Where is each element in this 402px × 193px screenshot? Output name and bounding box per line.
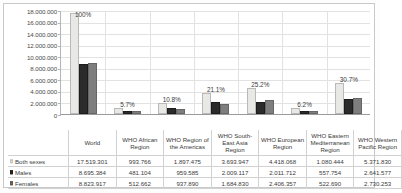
bar-percent-label: 6.2% — [282, 101, 326, 108]
table-corner-cell — [8, 130, 69, 156]
bar-percent-label: 100% — [61, 11, 105, 18]
y-axis: 18.000.00016.000.00014.000.00012.000.000… — [8, 8, 60, 118]
data-table-wrapper: WorldWHO African RegionWHO Region of the… — [8, 130, 372, 189]
table-row-label: Males — [8, 167, 69, 178]
bar-percent-label: 5.7% — [105, 101, 149, 108]
table-column-header: WHO Region of the Americas — [164, 130, 212, 156]
bar-both — [247, 88, 256, 114]
plot-area-wrapper: 18.000.00016.000.00014.000.00012.000.000… — [8, 8, 372, 128]
bar-group: 5.7% — [105, 11, 149, 114]
y-axis-tick-label: 16.000.000 — [27, 19, 57, 26]
bar-percent-label: 25.2% — [238, 81, 282, 88]
bar-females — [265, 100, 274, 114]
y-axis-tick-label: 8.000.000 — [30, 65, 57, 72]
bar-group-bars — [61, 11, 105, 114]
table-row-label: Both sexes — [8, 156, 69, 167]
bar-males — [211, 102, 220, 114]
table-cell-value: 8.823.917 — [69, 178, 117, 189]
bar-both — [335, 83, 344, 114]
y-axis-tick-label: 18.000.000 — [27, 8, 57, 15]
table-head: WorldWHO African RegionWHO Region of the… — [8, 130, 401, 156]
y-axis-tickmark — [58, 115, 61, 116]
bar-percent-label: 21.1% — [194, 86, 238, 93]
y-axis-tick-label: 2.000.000 — [30, 100, 57, 107]
table-column-header: WHO South-East Asia Region — [211, 130, 259, 156]
table-row: Females8.823.917512.662937.8901.684.8302… — [8, 178, 401, 189]
bar-females — [309, 111, 318, 114]
bar-group: 30.7% — [327, 11, 371, 114]
table-cell-value: 512.662 — [116, 178, 164, 189]
bar-males — [256, 102, 265, 114]
table-cell-value: 481.104 — [116, 167, 164, 178]
bar-males — [167, 108, 176, 114]
bar-percent-label: 30.7% — [327, 76, 371, 83]
bar-females — [220, 104, 229, 114]
bar-group: 21.1% — [194, 11, 238, 114]
bar-group-bars — [194, 11, 238, 114]
y-axis-tick-label: 12.000.000 — [27, 42, 57, 49]
bar-group-bars — [238, 11, 282, 114]
table-cell-value: 937.890 — [164, 178, 212, 189]
table-cell-value: 2.406.357 — [259, 178, 307, 189]
bar-both — [158, 103, 167, 114]
legend-swatch-icon — [10, 181, 14, 185]
bar-females — [132, 111, 141, 114]
bar-group-bars — [282, 11, 326, 114]
table-cell-value: 1.684.830 — [211, 178, 259, 189]
table-cell-value: 17.519.301 — [69, 156, 117, 167]
bar-females — [353, 98, 362, 114]
table-cell-value: 2.009.117 — [211, 167, 259, 178]
bar-percent-label: 10.8% — [150, 96, 194, 103]
table-body: Both sexes17.519.301993.7661.897.4753.69… — [8, 156, 401, 189]
table-cell-value: 1.080.444 — [306, 156, 354, 167]
table-cell-value: 959.585 — [164, 167, 212, 178]
table-column-header: WHO Eastern Mediterranean Region — [306, 130, 354, 156]
table-column-header: WHO African Region — [116, 130, 164, 156]
table-row-label: Females — [8, 178, 69, 189]
y-axis-tick-label: 6.000.000 — [30, 77, 57, 84]
table-cell-value: 522.690 — [306, 178, 354, 189]
table-column-header: WHO European Region — [259, 130, 307, 156]
table-cell-value: 557.754 — [306, 167, 354, 178]
table-column-header: WHO Western Pacific Region — [354, 130, 402, 156]
figure-frame: 18.000.00016.000.00014.000.00012.000.000… — [3, 3, 375, 188]
y-axis-tick-label: 4.000.000 — [30, 88, 57, 95]
table-row: Males8.695.384481.104959.5852.009.1172.0… — [8, 167, 401, 178]
bar-females — [176, 109, 185, 114]
table-cell-value: 8.695.384 — [69, 167, 117, 178]
bar-group-bars — [327, 11, 371, 114]
y-axis-tick-label: 0 — [54, 112, 57, 119]
table-cell-value: 2.011.712 — [259, 167, 307, 178]
legend-swatch-icon — [10, 159, 14, 163]
bar-both — [70, 13, 79, 114]
bar-group-bars — [105, 11, 149, 114]
data-table: WorldWHO African RegionWHO Region of the… — [8, 130, 402, 189]
bar-both — [291, 108, 300, 114]
bar-group: 100% — [61, 11, 105, 114]
table-cell-value: 4.418.068 — [259, 156, 307, 167]
y-axis-tick-label: 14.000.000 — [27, 31, 57, 38]
table-cell-value: 1.897.475 — [164, 156, 212, 167]
table-row: Both sexes17.519.301993.7661.897.4753.69… — [8, 156, 401, 167]
bar-males — [123, 111, 132, 114]
bar-males — [79, 64, 88, 114]
table-cell-value: 5.371.830 — [354, 156, 402, 167]
table-header-row: WorldWHO African RegionWHO Region of the… — [8, 130, 401, 156]
bar-both — [202, 93, 211, 114]
bar-females — [88, 63, 97, 114]
bar-males — [344, 99, 353, 114]
legend-swatch-icon — [10, 170, 14, 174]
bar-both — [114, 108, 123, 114]
table-cell-value: 3.693.947 — [211, 156, 259, 167]
bar-group: 10.8% — [150, 11, 194, 114]
table-cell-value: 993.766 — [116, 156, 164, 167]
plot-area: 100%5.7%10.8%21.1%25.2%6.2%30.7% — [60, 11, 370, 115]
table-cell-value: 2.641.577 — [354, 167, 402, 178]
table-column-header: World — [69, 130, 117, 156]
bar-males — [300, 111, 309, 114]
y-axis-tick-label: 10.000.000 — [27, 54, 57, 61]
bar-group: 6.2% — [282, 11, 326, 114]
bar-group: 25.2% — [238, 11, 282, 114]
table-cell-value: 2.730.253 — [354, 178, 402, 189]
